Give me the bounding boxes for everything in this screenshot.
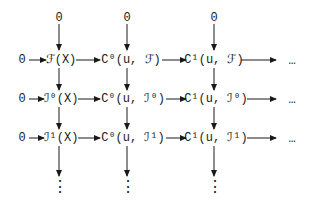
row1-ellipsis: … [288, 54, 295, 68]
row1-left-zero: 0 [18, 53, 25, 67]
row2-node-global-sections: ℐ⁰(X) [44, 92, 79, 106]
row2-node-c0: C⁰(u, ℐ⁰) [101, 92, 165, 106]
col2-vertical-ellipsis: ⋮ [120, 181, 136, 195]
row3-node-global-sections: ℐ¹(X) [44, 131, 79, 145]
row1-node-c1: C¹(u, ℱ) [184, 53, 243, 67]
row3-node-c0: C⁰(u, ℐ¹) [101, 131, 165, 145]
col3-vertical-ellipsis: ⋮ [207, 181, 223, 195]
row2-node-c1: C¹(u, ℐ⁰) [184, 92, 248, 106]
col1-vertical-ellipsis: ⋮ [52, 181, 68, 195]
row3-node-c1: C¹(u, ℐ¹) [184, 131, 248, 145]
row3-ellipsis: … [288, 132, 295, 146]
top-zero-col1: 0 [55, 11, 62, 25]
row2-left-zero: 0 [18, 92, 25, 106]
row3-left-zero: 0 [18, 131, 25, 145]
top-zero-col3: 0 [210, 11, 217, 25]
row1-node-global-sections: ℱ(X) [46, 53, 77, 67]
top-zero-col2: 0 [123, 11, 130, 25]
row2-ellipsis: … [288, 93, 295, 107]
row1-node-c0: C⁰(u, ℱ) [101, 53, 160, 67]
